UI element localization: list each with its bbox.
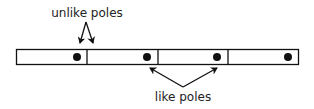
pole-dot-magnet-4 — [284, 53, 292, 61]
pole-dot-magnet-1 — [73, 53, 81, 61]
like-poles-arrows — [150, 68, 217, 87]
pole-dot-magnet-2 — [143, 53, 151, 61]
magnet-bar — [17, 50, 299, 65]
magnet-diagram: unlike poles like poles — [0, 0, 314, 109]
like-poles-label: like poles — [155, 90, 211, 104]
unlike-poles-arrows — [80, 22, 93, 43]
pole-dot-magnet-3 — [213, 53, 221, 61]
unlike-poles-label: unlike poles — [51, 6, 123, 20]
